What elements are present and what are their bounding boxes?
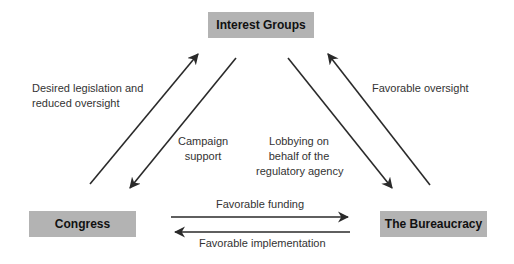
label-favorable-implementation: Favorable implementation: [199, 236, 326, 251]
arrow-congress-to-interest-groups: [90, 54, 198, 184]
arrow-bureaucracy-to-interest-groups: [328, 54, 430, 185]
label-line: Lobbying on: [256, 134, 342, 149]
label-line: Campaign: [178, 134, 228, 149]
label-line: regulatory agency: [256, 164, 342, 179]
node-bureaucracy: The Bureaucracy: [380, 211, 487, 237]
arrow-interest-groups-to-congress: [130, 58, 236, 188]
label-lobbying: Lobbying on behalf of the regulatory age…: [256, 134, 342, 179]
label-line: reduced oversight: [32, 96, 143, 111]
label-favorable-funding: Favorable funding: [216, 197, 304, 212]
node-interest-groups: Interest Groups: [208, 12, 314, 38]
node-congress: Congress: [29, 211, 136, 237]
label-desired-legislation: Desired legislation and reduced oversigh…: [32, 81, 143, 111]
label-line: support: [178, 149, 228, 164]
label-line: Desired legislation and: [32, 81, 143, 96]
label-favorable-oversight: Favorable oversight: [372, 81, 469, 96]
label-campaign-support: Campaign support: [178, 134, 228, 164]
label-line: behalf of the: [256, 149, 342, 164]
